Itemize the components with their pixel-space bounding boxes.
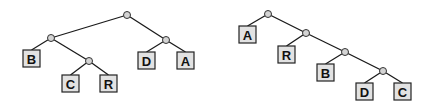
leaf-label: D (360, 85, 369, 100)
tree-edge (345, 52, 383, 71)
leaf-node-d: D (356, 83, 373, 100)
leaf-node-r: R (100, 75, 117, 92)
internal-node (86, 58, 93, 65)
leaf-node-r: R (278, 46, 295, 63)
internal-node (303, 30, 310, 37)
leaf-label: B (27, 52, 36, 67)
internal-node (342, 49, 349, 56)
leaf-node-b: B (317, 64, 334, 81)
leaf-label: C (398, 85, 408, 100)
leaf-label: C (66, 77, 76, 92)
leaf-label: R (282, 48, 292, 63)
tree-edge (51, 38, 89, 61)
internal-node (124, 12, 131, 19)
leaf-node-a: A (239, 26, 256, 43)
tree-edge (127, 15, 166, 40)
leaf-label: R (104, 77, 114, 92)
leaf-node-a: A (177, 52, 194, 69)
tree-diagram-canvas: BCRDAARBDC (0, 0, 433, 107)
balanced-tree: BCRDA (23, 12, 194, 93)
leaf-node-c: C (62, 75, 79, 92)
leaf-node-c: C (394, 83, 411, 100)
caterpillar-tree: ARBDC (239, 11, 411, 101)
tree-edge (306, 33, 345, 52)
internal-node (380, 68, 387, 75)
leaf-label: A (243, 28, 253, 43)
tree-edge (268, 14, 306, 33)
leaf-label: D (142, 54, 151, 69)
internal-node (48, 35, 55, 42)
internal-node (265, 11, 272, 18)
leaf-label: B (321, 66, 330, 81)
internal-node (163, 37, 170, 44)
leaf-node-b: B (23, 50, 40, 67)
leaf-node-d: D (138, 52, 155, 69)
tree-edge (51, 15, 127, 38)
leaf-label: A (181, 54, 191, 69)
